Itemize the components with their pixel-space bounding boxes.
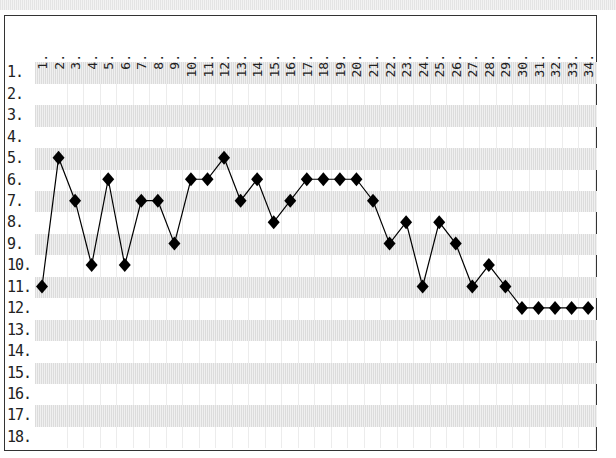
diamond-marker-icon bbox=[86, 258, 98, 272]
diamond-marker-icon bbox=[566, 301, 578, 315]
diamond-marker-icon bbox=[533, 301, 545, 315]
diamond-marker-icon bbox=[152, 194, 164, 208]
diamond-marker-icon bbox=[36, 280, 48, 294]
diamond-marker-icon bbox=[582, 301, 594, 315]
diamond-marker-icon bbox=[317, 172, 329, 186]
diamond-marker-icon bbox=[417, 280, 429, 294]
diamond-marker-icon bbox=[549, 301, 561, 315]
diamond-marker-icon bbox=[334, 172, 346, 186]
diamond-marker-icon bbox=[69, 194, 81, 208]
diamond-marker-icon bbox=[168, 237, 180, 251]
diamond-marker-icon bbox=[185, 172, 197, 186]
diamond-marker-icon bbox=[119, 258, 131, 272]
diamond-marker-icon bbox=[53, 151, 65, 165]
diamond-marker-icon bbox=[102, 172, 114, 186]
diamond-marker-icon bbox=[135, 194, 147, 208]
line-plot bbox=[0, 0, 616, 458]
